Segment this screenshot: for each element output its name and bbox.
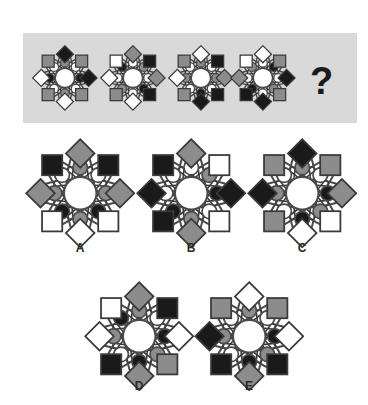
sequence-figure-3 bbox=[168, 45, 234, 111]
option-label-d: D bbox=[127, 380, 151, 392]
option-label-b: B bbox=[179, 242, 203, 254]
option-e[interactable] bbox=[194, 281, 304, 391]
option-label-c: C bbox=[290, 242, 314, 254]
option-c[interactable] bbox=[247, 138, 357, 248]
sequence-figure-4 bbox=[230, 45, 296, 111]
sequence-figure-1 bbox=[32, 45, 98, 111]
puzzle-canvas: ABCDE? bbox=[0, 0, 368, 405]
option-label-e: E bbox=[237, 380, 261, 392]
option-b[interactable] bbox=[136, 138, 246, 248]
question-mark: ? bbox=[310, 62, 333, 100]
option-label-a: A bbox=[68, 242, 92, 254]
option-d[interactable] bbox=[84, 281, 194, 391]
sequence-figure-2 bbox=[100, 45, 166, 111]
option-a[interactable] bbox=[25, 138, 135, 248]
